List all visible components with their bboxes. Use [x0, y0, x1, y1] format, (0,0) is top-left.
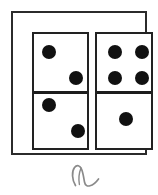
pip	[119, 112, 133, 126]
domino-tile-left	[32, 32, 89, 150]
domino-right-top-half	[97, 34, 151, 93]
pip	[108, 45, 122, 59]
domino-right-bottom-half	[97, 89, 151, 148]
pip	[71, 124, 85, 138]
handwritten-a-icon	[60, 158, 110, 192]
domino-tile-right	[95, 32, 153, 150]
pip	[42, 45, 56, 59]
domino-figure	[0, 0, 158, 195]
outer-frame	[11, 11, 147, 155]
handwritten-annotation-a	[60, 158, 110, 192]
pip	[135, 71, 149, 85]
pip	[42, 98, 56, 112]
pip	[69, 71, 83, 85]
domino-left-top-half	[34, 34, 87, 93]
domino-left-bottom-half	[34, 89, 87, 148]
pip	[108, 71, 122, 85]
pip	[135, 45, 149, 59]
